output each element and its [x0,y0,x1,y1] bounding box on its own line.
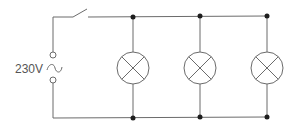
junction-bottom-2 [198,115,203,120]
junction-bottom-3 [265,115,270,120]
wire-bottom-bus [53,117,267,118]
lamp-2 [184,16,216,117]
source-terminal-bottom [50,77,56,83]
junction-bottom-1 [131,116,136,121]
switch-blade [73,9,87,17]
junction-top-3 [265,14,270,19]
junction-top-1 [131,15,136,20]
source-voltage-label: 230V [15,62,43,76]
ac-tilde-icon [47,64,62,72]
junction-top-2 [198,14,203,19]
source-terminal-top [50,52,56,58]
lamp-1 [117,17,149,118]
lamp-3 [251,16,283,117]
wire-top-bus [88,16,267,17]
circuit-diagram: 230V [0,0,286,129]
